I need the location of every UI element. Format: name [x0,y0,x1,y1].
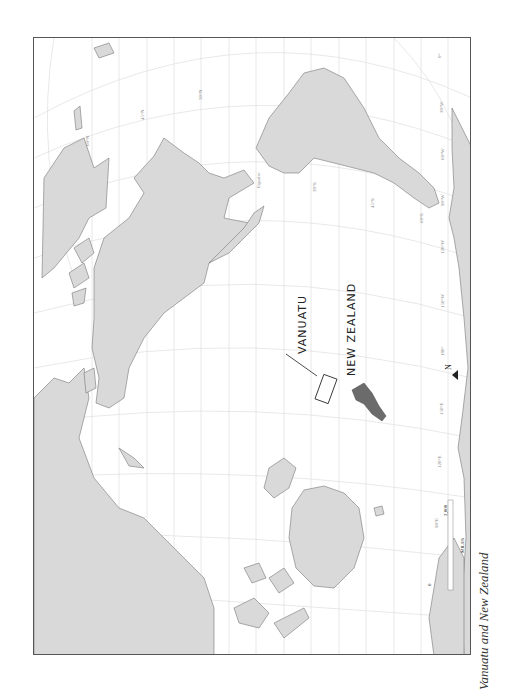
new-zealand-label: NEW ZEALAND [345,283,358,376]
scale-bar [448,500,453,590]
map-caption: Vanuatu and New Zealand [476,552,492,690]
grid-lat-60s: 60°S [419,213,424,223]
grid-lon-180: 180° [440,347,445,357]
grid-lon-120e: 120°E [437,455,442,468]
grid-lat-30n: 30°N [198,89,203,100]
scale-end: 2,000 [443,505,448,516]
grid-lon-30w: 30°W [439,101,444,113]
grid-lat-45s: 45°S [370,198,375,208]
land [34,43,471,655]
grid-lon-150w: 150°W [440,294,445,308]
scale-unit: MILES [460,538,465,553]
world-map [34,38,471,655]
north-arrow-icon [452,370,458,380]
north-arrow-label: N [444,364,453,370]
grid-lon-150e: 150°E [439,402,444,415]
scale-start: 0 [427,584,432,587]
vanuatu-label: VANUATU [296,295,309,354]
map-frame: VANUATU NEW ZEALAND N 0 MILES 2,000 60°N… [33,37,471,655]
grid-lat-45n: 45°N [140,109,145,120]
grid-lon-90w: 90°W [440,194,445,206]
grid-equator: Equator [256,172,261,188]
vanuatu-marker [286,354,337,404]
grid-lon-60w: 60°W [440,148,445,160]
new-zealand-shape [352,383,386,421]
grid-lon-0: 0° [437,54,442,59]
grid-lon-90e: 90°E [434,518,439,528]
grid-lon-120w: 120°W [440,240,445,254]
grid-lat-60n: 60°N [85,135,90,146]
grid-lat-30s: 30°S [312,182,317,192]
